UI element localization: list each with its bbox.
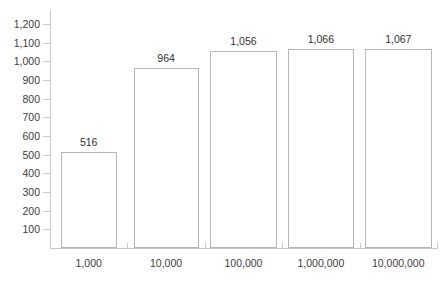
y-axis-tick-label: 900 bbox=[22, 75, 40, 85]
x-axis-tick-label: 100,000 bbox=[205, 257, 282, 269]
bar-value-label: 964 bbox=[127, 52, 204, 64]
x-axis-tick-label: 10,000 bbox=[127, 257, 204, 269]
x-axis-divider bbox=[127, 243, 128, 249]
y-axis-tick bbox=[43, 99, 50, 100]
y-axis-line bbox=[50, 10, 51, 248]
bar-value-label: 1,066 bbox=[282, 33, 359, 45]
y-axis-tick bbox=[43, 211, 50, 212]
x-axis-tick-label: 10,000,000 bbox=[360, 257, 437, 269]
y-axis-tick bbox=[43, 173, 50, 174]
y-axis-tick-label: 400 bbox=[22, 168, 40, 178]
y-axis-tick-label: 800 bbox=[22, 94, 40, 104]
bar-value-label: 1,056 bbox=[205, 35, 282, 47]
bar[interactable] bbox=[210, 51, 277, 248]
x-axis-divider bbox=[282, 243, 283, 249]
y-axis-tick-label: 100 bbox=[22, 224, 40, 234]
y-axis-tick-label: 500 bbox=[22, 150, 40, 160]
y-axis-tick bbox=[43, 43, 50, 44]
bar-chart: 1002003004005006007008009001,0001,1001,2… bbox=[0, 0, 442, 283]
y-axis-tick-label: 700 bbox=[22, 112, 40, 122]
y-axis-tick bbox=[43, 117, 50, 118]
bar[interactable] bbox=[61, 152, 117, 248]
y-axis-tick bbox=[43, 229, 50, 230]
y-axis-tick-label: 300 bbox=[22, 187, 40, 197]
bar-value-label: 1,067 bbox=[360, 33, 437, 45]
x-axis-divider bbox=[437, 243, 438, 249]
y-axis-tick bbox=[43, 155, 50, 156]
y-axis-tick-label: 1,000 bbox=[14, 56, 40, 66]
bar-value-label: 516 bbox=[50, 136, 127, 148]
x-axis-tick-label: 1,000,000 bbox=[282, 257, 359, 269]
bar[interactable] bbox=[134, 68, 199, 248]
y-axis-tick bbox=[43, 61, 50, 62]
y-axis-tick bbox=[43, 80, 50, 81]
x-axis-line bbox=[50, 248, 437, 249]
y-axis-tick bbox=[43, 136, 50, 137]
y-axis-tick bbox=[43, 24, 50, 25]
y-axis-tick-label: 600 bbox=[22, 131, 40, 141]
y-axis-tick bbox=[43, 192, 50, 193]
x-axis-tick-label: 1,000 bbox=[50, 257, 127, 269]
bar[interactable] bbox=[288, 49, 355, 248]
x-axis-divider bbox=[360, 243, 361, 249]
y-axis-tick-label: 1,100 bbox=[14, 38, 40, 48]
bar[interactable] bbox=[365, 49, 432, 248]
y-axis-tick-label: 1,200 bbox=[14, 19, 40, 29]
x-axis-divider bbox=[50, 243, 51, 249]
y-axis-tick-label: 200 bbox=[22, 206, 40, 216]
x-axis-divider bbox=[205, 243, 206, 249]
